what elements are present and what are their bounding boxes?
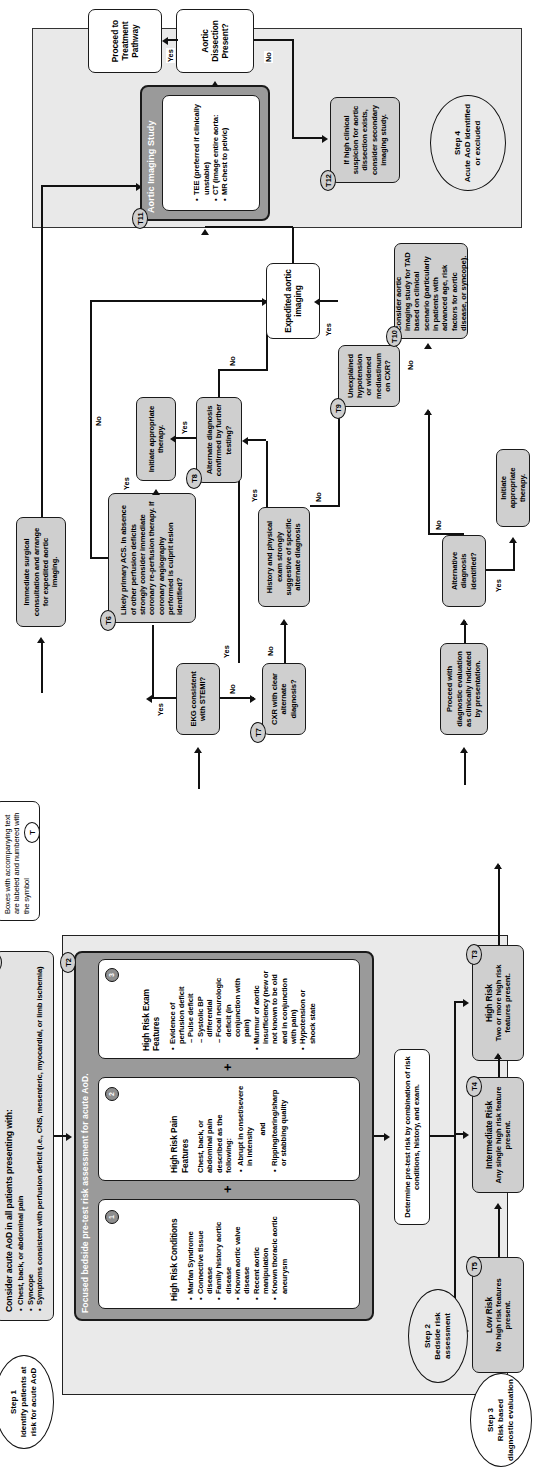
edge-immediate-down-to-t11 xyxy=(41,186,139,188)
plus-separator-1: + xyxy=(220,1185,235,1193)
arrow-expedited-t11 xyxy=(201,229,209,235)
t6-tag: T6 xyxy=(100,610,116,631)
list-item: Systolic BP differential xyxy=(196,967,215,1037)
arrow-into-ekg xyxy=(194,747,202,753)
t11-inner-list-box: TEE (preferred if clinically unstable) C… xyxy=(162,95,260,211)
step2-sub: Bedside risk assessment xyxy=(433,1294,453,1378)
alt-dx-text: Alternative diagnosis identified? xyxy=(450,541,478,601)
list-item: Chest, back, or abdominal pain xyxy=(16,960,25,1305)
edge-expedited-to-t11-v xyxy=(205,227,293,229)
edge-label-yes-aod: Yes xyxy=(166,48,175,63)
box2-lead: Chest, back, or abdominal pain described… xyxy=(196,1085,233,1173)
aod-present-text: Aortic Dissection Present? xyxy=(200,15,231,67)
t5-title: Low Risk xyxy=(484,1263,494,1367)
history-physical-text: History and physical exam strongly sugge… xyxy=(265,513,302,601)
determine-pretest-risk-box: Determine pre-test risk by combination o… xyxy=(394,1049,430,1225)
box1-list: Marfan Syndrome Connective tissue diseas… xyxy=(186,1207,289,1301)
edge-t5-out xyxy=(498,1207,500,1257)
edge-t8-no-right-stub xyxy=(218,369,220,397)
box2-conjunction: and xyxy=(258,1085,267,1173)
proceed-treatment-text: Proceed to Treatment Pathway xyxy=(110,15,141,67)
arrow-into-proceed xyxy=(460,747,468,753)
edge-t3-out xyxy=(498,865,500,945)
legend-tag-symbol: T xyxy=(24,822,40,843)
edge-label-no-t6: No xyxy=(94,415,103,427)
bus-horizontal xyxy=(454,1003,456,1331)
list-item: CT (image entire aorta: xyxy=(211,104,220,195)
arrow-history-to-t8 xyxy=(242,437,248,445)
edge-expedited-to-t11 xyxy=(292,227,294,263)
arrow-proceed-altdx xyxy=(460,619,468,625)
edge-t6-no-right xyxy=(90,301,92,559)
edge-immediate-to-t11 xyxy=(41,185,43,517)
arrow-t6-yes-therapy xyxy=(152,489,160,495)
list-item: Recent aortic manipulation xyxy=(252,1207,271,1294)
list-item: Known thoracic aortic aneurysm xyxy=(270,1207,289,1294)
arrow-t3-out xyxy=(494,863,502,869)
arrow-ekg-no-t7 xyxy=(250,695,256,703)
t1-list: Chest, back, or abdominal pain Syncope S… xyxy=(16,960,44,1312)
step3-sub: Risk based diagnostic evaluation xyxy=(496,1378,516,1462)
t11-list: TEE (preferred if clinically unstable) C… xyxy=(192,104,229,202)
t2-tag: T2 xyxy=(60,952,76,973)
edge-t8-no-down xyxy=(218,370,266,372)
list-item: Evidence of perfusion deficit xyxy=(168,967,187,1044)
flowchart-canvas: Focused bedside pre-test risk assessment… xyxy=(0,0,546,1483)
edge-label-no-history: No xyxy=(314,491,323,503)
edge-label-no-aod: No xyxy=(264,51,273,63)
edge-aod-yes-up xyxy=(168,40,178,42)
t4-tag: T4 xyxy=(466,1076,482,1097)
history-physical-box: History and physical exam strongly sugge… xyxy=(258,507,310,607)
bus-determine-down xyxy=(430,1136,454,1138)
box3-number: 3 xyxy=(105,968,119,982)
list-item: Connective tissue disease xyxy=(196,1207,215,1294)
list-item: Murmur of aortic insufficiency (new or n… xyxy=(252,967,299,1044)
arrow-t9-yes-expedited xyxy=(314,298,320,306)
arrow-aod-yes-treatment xyxy=(162,37,168,45)
step4-title: Step 4 xyxy=(453,100,463,186)
ekg-stemi-box: EKG consistent with STEMI? xyxy=(176,663,220,735)
ekg-stemi-text: EKG consistent with STEMI? xyxy=(189,669,208,729)
edge-t7-no-right xyxy=(284,623,286,663)
arrow-in-immediate xyxy=(37,637,45,643)
edge-t6-no-down xyxy=(90,301,266,303)
edge-label-yes-t9: Yes xyxy=(324,322,333,337)
t4-sub: Any single high risk feature present. xyxy=(494,1083,513,1187)
list-item: Syncope xyxy=(26,960,35,1305)
edge-history-yes xyxy=(266,441,268,507)
t3-title: High Risk xyxy=(484,951,494,1055)
box2-list-a: Abrupt in onset/severe in intensity xyxy=(236,1085,255,1173)
list-item: MR chest to pelvic) xyxy=(220,104,229,195)
proceed-diagnostic-box: Proceed with diagnostic evaluation as cl… xyxy=(440,643,488,735)
t5-tag: T5 xyxy=(466,1256,482,1277)
arrow-t11-to-aod xyxy=(211,81,219,87)
step3-oval: Step 3 Risk based diagnostic evaluation xyxy=(470,1373,532,1467)
t8-text: Alternate diagnosis confirmed by further… xyxy=(205,403,233,477)
t12-box: If high clinical suspicion for aortic di… xyxy=(330,97,400,183)
list-item: Pulse deficit xyxy=(186,967,195,1037)
arrow-t7-yes-therapy xyxy=(170,435,176,443)
step2-oval: Step 2 Bedside risk assessment xyxy=(408,1289,468,1383)
arrow-t5-out xyxy=(494,1203,502,1209)
t3-tag: T3 xyxy=(466,944,482,965)
box2-list-b: Ripping/tearing/sharp or stabbing qualit… xyxy=(270,1085,289,1173)
edge-label-yes-t7: Yes xyxy=(222,644,231,659)
edge-label-no-t7: No xyxy=(266,645,275,657)
arrow-t7-no-history xyxy=(280,619,288,625)
t7-cxr-box: CXR with clear alternate diagnosis? xyxy=(262,663,306,735)
edge-label-no-altdx: No xyxy=(434,519,443,531)
t1-title: Consider acute AoD in all patients prese… xyxy=(4,960,15,1312)
arrow-t9-no-t10 xyxy=(424,343,432,349)
edge-ekg-to-t6 xyxy=(152,698,176,700)
box2-title: High Risk Pain Features xyxy=(169,1085,190,1173)
t2-band-title: Focused bedside pre-test risk assessment… xyxy=(80,1073,90,1313)
list-item: TEE (preferred if clinically unstable) xyxy=(192,104,211,195)
t12-text: If high clinical suspicion for aortic di… xyxy=(342,104,389,176)
edge-aod-no-to-t12 xyxy=(292,138,322,140)
t5-low-risk-box: Low Risk No high risk features present. xyxy=(472,1257,524,1373)
edge-history-no-down xyxy=(310,506,338,508)
t10-text: Consider aortic imaging study for TAD ba… xyxy=(394,251,469,331)
edge-label-no-t9: No xyxy=(406,359,415,371)
step3-title: Step 3 xyxy=(486,1378,496,1462)
box1-number: 1 xyxy=(105,1210,119,1224)
